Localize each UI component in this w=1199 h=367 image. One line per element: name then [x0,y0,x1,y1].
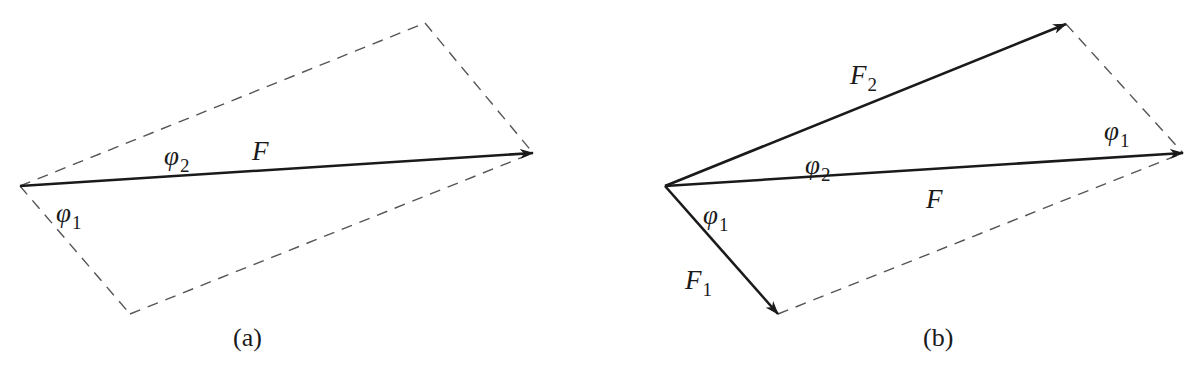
label-symbol: F [685,265,702,295]
label-phi1-a: φ1 [56,200,81,232]
label-symbol: φ [805,150,820,180]
caption-b: (b) [923,325,953,351]
label-F-b: F [926,186,943,213]
label-phi2-a: φ2 [164,143,189,175]
dashed-edge [130,153,533,314]
label-subscript: 1 [719,214,729,235]
dashed-edge [778,153,1183,314]
panel-a-diagram [20,23,533,314]
vector-F-arrow [20,153,533,186]
label-symbol: F [926,184,943,214]
label-subscript: 2 [180,155,190,176]
label-subscript: 1 [703,279,713,300]
label-phi1-right-b: φ1 [1104,118,1129,150]
label-subscript: 1 [1120,130,1130,151]
caption-a: (a) [233,325,262,351]
label-subscript: 1 [72,212,82,233]
force-parallelogram-figure: φ2 F φ1 (a) F2 φ1 φ2 F φ1 F1 (b) [0,0,1199,367]
dashed-edge [20,23,425,186]
panel-b-dashed-edges [778,24,1183,314]
label-F1-b: F1 [685,267,712,299]
label-symbol: φ [1104,116,1119,146]
label-subscript: 2 [868,74,878,95]
label-symbol: F [850,60,867,90]
label-symbol: φ [703,200,718,230]
vector-F2-arrow [665,24,1066,186]
vector-F-arrow [665,153,1183,186]
label-phi1-left-b: φ1 [703,202,728,234]
label-symbol: φ [56,198,71,228]
label-F2-b: F2 [850,62,877,94]
label-subscript: 2 [821,164,831,185]
label-F-a: F [252,138,269,165]
diagram-canvas [0,0,1199,367]
panel-b-diagram [665,24,1183,314]
label-symbol: F [252,136,269,166]
label-phi2-b: φ2 [805,152,830,184]
label-symbol: φ [164,141,179,171]
dashed-edge [425,23,533,153]
